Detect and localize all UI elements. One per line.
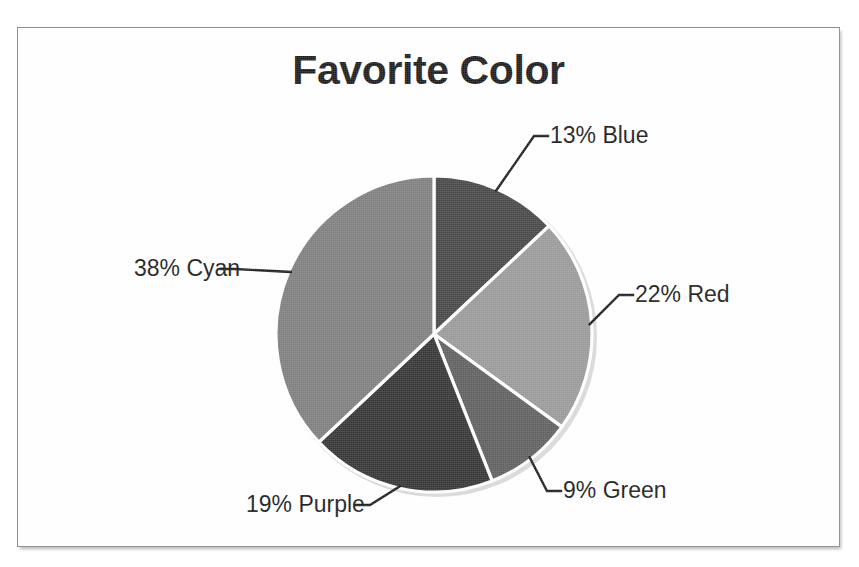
scan-top-clipped-text <box>95 0 615 2</box>
pie-label-blue: 13% Blue <box>550 122 648 148</box>
pie-label-red: 22% Red <box>635 281 730 307</box>
pie-slices <box>276 176 592 492</box>
chart-card: Favorite Color 13% Blue22% Red9% Green19… <box>17 27 840 547</box>
pie-label-purple: 19% Purple <box>246 491 365 517</box>
pie-label-cyan: 38% Cyan <box>134 255 240 281</box>
leader-line-red <box>590 295 633 324</box>
pie-label-green: 9% Green <box>563 477 667 503</box>
pie-chart: 13% Blue22% Red9% Green19% Purple38% Cya… <box>18 28 841 548</box>
leader-line-blue <box>496 136 548 191</box>
